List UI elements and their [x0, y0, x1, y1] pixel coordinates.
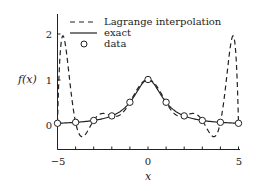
exact-line [58, 80, 239, 124]
legend-circle-marker-icon [81, 41, 87, 47]
y-tick-label-0: 0 [46, 120, 52, 131]
x-axis-label: x [145, 170, 152, 183]
data-point-marker [199, 117, 205, 123]
data-point-marker [163, 99, 169, 105]
y-tick-label-1: 1 [46, 75, 52, 86]
data-point-marker [54, 120, 60, 126]
x-tick-label-5: 5 [236, 156, 242, 167]
y-tick-label-2: 2 [46, 29, 52, 40]
legend: Lagrange interpolation exact data [70, 16, 222, 49]
data-point-marker [181, 113, 187, 119]
x-tick-label-neg5: −5 [51, 156, 66, 167]
legend-label-lagrange: Lagrange interpolation [104, 16, 222, 27]
data-markers [54, 76, 241, 126]
data-point-marker [145, 76, 151, 82]
data-point-marker [109, 113, 115, 119]
chart: 0 1 2 −5 0 5 x f(x) Lagrange interpolati… [0, 0, 256, 191]
legend-label-exact: exact [104, 27, 131, 38]
legend-label-data: data [104, 38, 126, 49]
data-point-marker [72, 119, 78, 125]
data-point-marker [127, 99, 133, 105]
x-tick-label-0: 0 [145, 156, 151, 167]
data-point-marker [235, 120, 241, 126]
data-point-marker [91, 117, 97, 123]
y-axis-label: f(x) [17, 73, 37, 86]
data-point-marker [217, 119, 223, 125]
